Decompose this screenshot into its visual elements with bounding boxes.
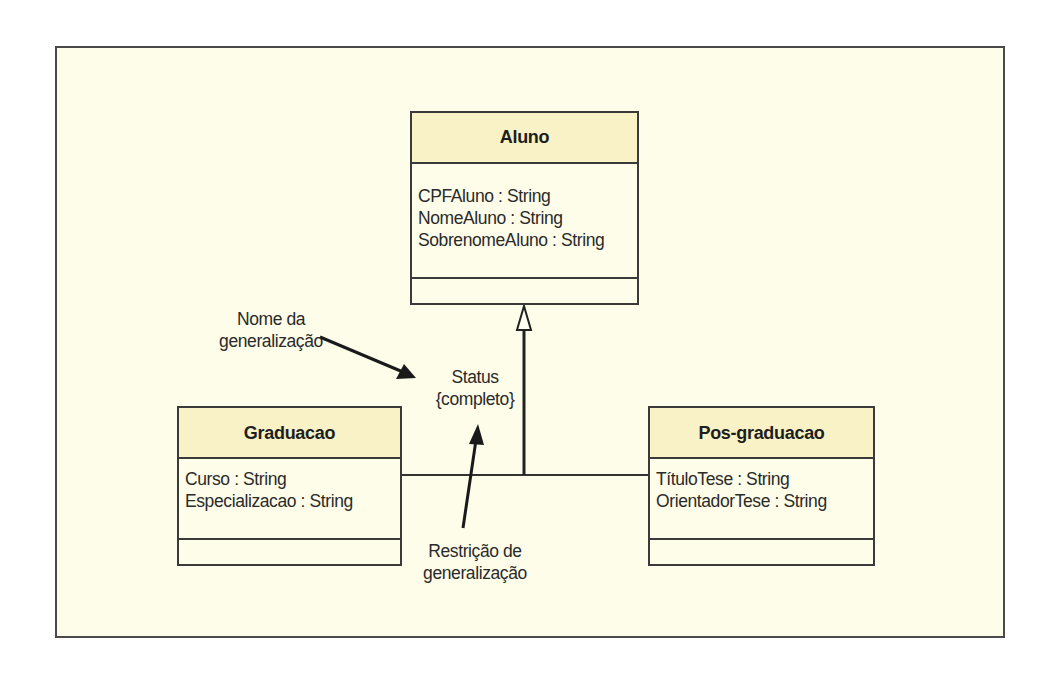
attribute: Especializacao : String xyxy=(185,490,400,512)
class-aluno[interactable]: Aluno CPFAluno : String NomeAluno : Stri… xyxy=(410,111,639,305)
attribute: NomeAluno : String xyxy=(418,207,637,229)
class-pos-graduacao-name: Pos-graduacao xyxy=(650,408,873,459)
attribute: Curso : String xyxy=(185,468,400,490)
generalization-name-text: Status xyxy=(430,366,520,388)
generalization-constraint-text: {completo} xyxy=(430,388,520,410)
arrow-icon xyxy=(469,424,484,445)
annotation-text: Restrição de xyxy=(415,540,535,562)
annotation-text: Nome da xyxy=(212,308,330,330)
annotation-text: generalização xyxy=(212,330,330,352)
attribute: OrientadorTese : String xyxy=(656,490,873,512)
generalization-name: Status {completo} xyxy=(430,366,520,410)
generalization-arrowhead-icon xyxy=(517,306,531,330)
class-graduacao-attributes: Curso : String Especializacao : String xyxy=(179,459,400,540)
annotation-generalization-name: Nome da generalização xyxy=(212,308,330,352)
class-aluno-attributes: CPFAluno : String NomeAluno : String Sob… xyxy=(412,164,637,279)
attribute: TítuloTese : String xyxy=(656,468,873,490)
annotation-text: generalização xyxy=(415,562,535,584)
class-pos-graduacao[interactable]: Pos-graduacao TítuloTese : String Orient… xyxy=(648,406,875,566)
class-graduacao[interactable]: Graduacao Curso : String Especializacao … xyxy=(177,406,402,566)
attribute: CPFAluno : String xyxy=(418,185,637,207)
class-graduacao-name: Graduacao xyxy=(179,408,400,459)
class-aluno-name: Aluno xyxy=(412,113,637,164)
attribute: SobrenomeAluno : String xyxy=(418,229,637,251)
class-pos-graduacao-attributes: TítuloTese : String OrientadorTese : Str… xyxy=(650,459,873,540)
annotation-generalization-constraint: Restrição de generalização xyxy=(415,540,535,584)
